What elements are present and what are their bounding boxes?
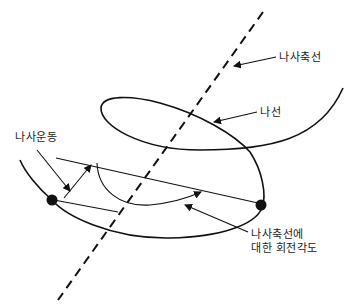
screw-motion-diagram [0,0,351,308]
translation-arrow [64,165,91,198]
reference-line-top [56,158,258,203]
screw-axis-label: 나사축선 [279,51,321,64]
helix-label: 나선 [260,106,281,119]
rotation-angle-leader [185,205,248,232]
helix-point-right [256,200,267,211]
rotation-angle-label-line1: 나사축선에 [251,228,304,241]
screw-motion-label: 나사운동 [15,131,57,144]
helix-lower-loop [20,152,264,238]
rotation-angle-label-line2: 대한 회전각도 [251,242,318,255]
helix-leader [214,112,257,122]
screw-motion-leader [37,150,70,191]
screw-axis-leader [234,57,276,66]
rotation-arc [97,163,201,205]
screw-axis-line [58,12,263,300]
